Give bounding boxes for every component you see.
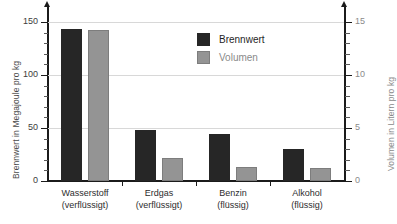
y-axis-left-tick xyxy=(41,22,48,23)
legend-label-brennwert: Brennwert xyxy=(219,34,265,45)
x-axis-category-label: Wasserstoff(verflüssigt) xyxy=(48,188,122,211)
y-axis-left-tick-label: 0 xyxy=(0,175,38,185)
y-axis-left-tick-label: 150 xyxy=(0,16,38,26)
y-axis-right-title: Volumen in Litern pro kg xyxy=(386,77,396,171)
bar-brennwert xyxy=(209,134,230,181)
category-label-line: (flüssig) xyxy=(270,200,344,212)
bar-brennwert xyxy=(61,29,82,181)
bar-volumen xyxy=(310,168,331,181)
legend-swatch-brennwert xyxy=(197,33,210,46)
y-axis-left-minor-tick xyxy=(44,33,49,34)
y-axis-left-tick-label: 100 xyxy=(0,69,38,79)
bar-volumen xyxy=(88,30,109,181)
category-label-line: Benzin xyxy=(196,188,270,200)
y-axis-right-minor-tick xyxy=(345,64,350,65)
y-axis-right-minor-tick xyxy=(345,43,350,44)
bar-brennwert xyxy=(135,130,156,181)
x-axis-category-label: Erdgas(verflüssigt) xyxy=(122,188,196,211)
y-axis-left-minor-tick xyxy=(44,160,49,161)
y-axis-right-tick xyxy=(345,75,352,76)
category-label-line: Alkohol xyxy=(270,188,344,200)
category-label-line: Erdgas xyxy=(122,188,196,200)
y-axis-left-arrow-icon xyxy=(44,1,50,7)
y-axis-right-tick-label: 10 xyxy=(355,69,365,79)
x-axis-separator-tick xyxy=(196,181,197,186)
y-axis-left-minor-tick xyxy=(44,64,49,65)
y-axis-left-tick-label: 50 xyxy=(0,122,38,132)
y-axis-left-minor-tick xyxy=(44,96,49,97)
category-label-line: (flüssig) xyxy=(196,200,270,212)
bar-volumen xyxy=(236,167,257,181)
y-axis-right-minor-tick xyxy=(345,117,350,118)
y-axis-right-tick-label: 0 xyxy=(355,175,360,185)
legend-item-volumen: Volumen xyxy=(197,48,265,66)
x-axis-category-label: Alkohol(flüssig) xyxy=(270,188,344,211)
category-label-line: (verflüssigt) xyxy=(48,200,122,212)
x-axis-separator-tick xyxy=(122,181,123,186)
legend-item-brennwert: Brennwert xyxy=(197,30,265,48)
y-axis-left-minor-tick xyxy=(44,54,49,55)
x-axis-separator-tick xyxy=(270,181,271,186)
y-axis-right-minor-tick xyxy=(345,54,350,55)
bar-brennwert xyxy=(283,149,304,181)
y-axis-right-minor-tick xyxy=(345,139,350,140)
y-axis-right-tick-label: 5 xyxy=(355,122,360,132)
y-axis-right-tick xyxy=(345,181,352,182)
y-axis-left-minor-tick xyxy=(44,107,49,108)
y-axis-right-tick xyxy=(345,128,352,129)
gridline-150 xyxy=(48,22,344,23)
y-axis-left-minor-tick xyxy=(44,149,49,150)
bar-volumen xyxy=(162,158,183,181)
y-axis-right-minor-tick xyxy=(345,107,350,108)
y-axis-right-tick xyxy=(345,22,352,23)
y-axis-left-tick xyxy=(41,181,48,182)
y-axis-right-minor-tick xyxy=(345,170,350,171)
y-axis-left-minor-tick xyxy=(44,86,49,87)
chart-legend: Brennwert Volumen xyxy=(197,30,265,66)
y-axis-left-minor-tick xyxy=(44,43,49,44)
y-axis-left-minor-tick xyxy=(44,117,49,118)
y-axis-right-minor-tick xyxy=(345,33,350,34)
x-axis-category-label: Benzin(flüssig) xyxy=(196,188,270,211)
y-axis-right-minor-tick xyxy=(345,86,350,87)
y-axis-right-minor-tick xyxy=(345,149,350,150)
y-axis-right-minor-tick xyxy=(345,96,350,97)
legend-swatch-volumen xyxy=(197,51,210,64)
category-label-line: (verflüssigt) xyxy=(122,200,196,212)
y-axis-right-tick-label: 15 xyxy=(355,16,365,26)
bar-chart: Brennwert in Megajoule pro kg Volumen in… xyxy=(0,0,397,224)
y-axis-right-arrow-icon xyxy=(341,1,347,7)
legend-label-volumen: Volumen xyxy=(219,52,258,63)
y-axis-right-minor-tick xyxy=(345,160,350,161)
category-label-line: Wasserstoff xyxy=(48,188,122,200)
plot-area xyxy=(48,22,344,181)
y-axis-left-minor-tick xyxy=(44,170,49,171)
y-axis-left-tick xyxy=(41,75,48,76)
y-axis-left-tick xyxy=(41,128,48,129)
y-axis-left-minor-tick xyxy=(44,139,49,140)
